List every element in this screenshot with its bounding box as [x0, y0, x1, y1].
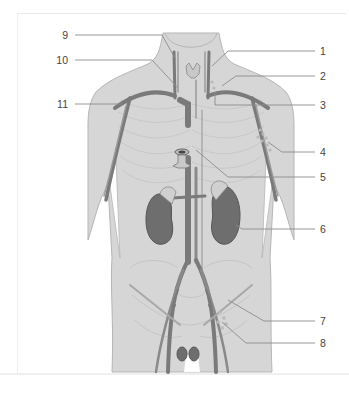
label-11: 11	[40, 98, 68, 110]
label-5: 5	[320, 171, 326, 183]
label-9: 9	[40, 29, 68, 41]
label-7: 7	[320, 315, 326, 327]
label-10: 10	[40, 54, 68, 66]
label-3: 3	[320, 99, 326, 111]
label-6: 6	[320, 223, 326, 235]
label-4: 4	[320, 146, 326, 158]
testis-left	[177, 347, 187, 361]
testis-right	[189, 347, 199, 361]
label-2: 2	[320, 70, 326, 82]
label-1: 1	[320, 45, 326, 57]
label-8: 8	[320, 337, 326, 349]
